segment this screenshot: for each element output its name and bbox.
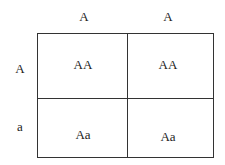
cell-r1-c1: AA [53,58,113,71]
column-allele-2: A [160,10,176,23]
row-allele-2: a [12,120,28,133]
cell-r2-c1: Aa [53,128,113,141]
grid-divider-vertical [127,34,128,157]
cell-r2-c2: Aa [138,130,198,143]
cell-r1-c2: AA [138,58,198,71]
row-allele-1: A [12,62,28,75]
grid-divider-horizontal [38,98,213,99]
punnett-grid: AA AA Aa Aa [37,33,214,158]
column-allele-1: A [76,10,92,23]
